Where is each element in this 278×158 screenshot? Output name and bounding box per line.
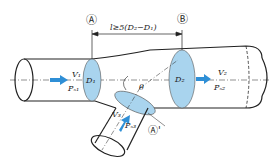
label-v2: V₂ — [218, 68, 227, 77]
label-v3: V₃ — [112, 110, 121, 119]
label-v1: V₁ — [72, 70, 81, 79]
pipe-diagram: Ⓐ Ⓑ l≥5(D₂−D₁) V₁ Pₛ₁ D₁ D₂ V₂ Pₛ₂ θ V₃ … — [0, 0, 278, 158]
label-ps3: Pₛ₃ — [124, 121, 136, 130]
label-distance: l≥5(D₂−D₁) — [110, 23, 157, 32]
label-ps1: Pₛ₁ — [67, 84, 79, 93]
dimension-line — [92, 30, 182, 59]
arrow-outlet-icon — [196, 74, 211, 84]
label-section-a: Ⓐ — [86, 14, 97, 27]
label-d1: D₁ — [85, 76, 96, 85]
label-section-b: Ⓑ — [177, 13, 188, 26]
branch-pipe — [88, 60, 178, 158]
arrow-inlet-icon — [50, 75, 68, 85]
label-d2: D₂ — [174, 75, 185, 84]
label-section-a-prime: Ⓐ' — [148, 125, 161, 136]
label-ps2: Pₛ₂ — [213, 83, 225, 92]
label-theta: θ — [139, 83, 144, 92]
